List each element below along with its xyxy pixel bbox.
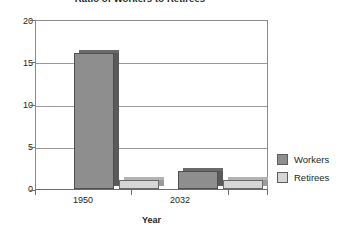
bar-front-face — [223, 180, 263, 189]
x-axis-tick-mark — [228, 190, 229, 195]
chart-legend: Workers Retirees — [277, 150, 329, 186]
y-axis-tick-label-20: 20 — [7, 17, 33, 26]
bar-retirees-2032[interactable] — [223, 180, 263, 189]
bar-front-face — [178, 171, 218, 189]
gridline-15 — [36, 63, 267, 64]
x-axis-tick-mark — [131, 190, 132, 195]
bar-workers-2032[interactable] — [178, 171, 218, 189]
x-axis-tick-mark — [35, 190, 36, 195]
legend-label-retirees: Retirees — [294, 172, 329, 183]
y-axis-tick-label-15: 15 — [7, 59, 33, 68]
bar-retirees-1950[interactable] — [119, 180, 159, 189]
legend-item-retirees[interactable]: Retirees — [277, 168, 329, 186]
bar-side-face — [114, 50, 119, 186]
plot-area — [35, 20, 268, 190]
x-axis-tick-label-2032: 2032 — [150, 195, 210, 205]
gridline-5 — [36, 148, 267, 149]
legend-swatch-icon-retirees — [277, 172, 288, 183]
x-axis-title: Year — [35, 215, 268, 225]
gridline-10 — [36, 106, 267, 107]
bar-front-face — [119, 180, 159, 189]
legend-label-workers: Workers — [294, 154, 329, 165]
chart-container: Ratio of Workers to Retirees 20 15 10 5 … — [0, 0, 346, 240]
x-axis-tick-mark — [267, 190, 268, 195]
legend-item-workers[interactable]: Workers — [277, 150, 329, 168]
bar-workers-1950[interactable] — [74, 53, 114, 189]
x-axis-tick-label-1950: 1950 — [53, 195, 113, 205]
bar-front-face — [74, 53, 114, 189]
chart-title: Ratio of Workers to Retirees — [0, 0, 280, 4]
legend-swatch-icon-workers — [277, 154, 288, 165]
